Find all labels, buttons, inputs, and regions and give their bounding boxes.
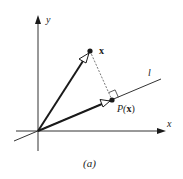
projection-label-suffix: ) — [131, 103, 134, 115]
projection-label-prefix: P( — [116, 103, 127, 115]
open-arrowhead-icon — [79, 53, 89, 63]
open-arrowhead-icon — [100, 100, 110, 108]
y-axis-arrow-icon — [35, 15, 41, 24]
point-x — [87, 48, 92, 53]
x-axis-arrow-icon — [157, 128, 166, 134]
projection-diagram: y x l x P(x) (a) — [0, 0, 183, 179]
projection-label: P(x) — [116, 103, 135, 115]
projection-segment — [90, 51, 112, 100]
point-projection — [109, 97, 114, 102]
y-axis-label: y — [45, 14, 51, 25]
line-l-label: l — [148, 67, 151, 78]
point-x-label: x — [99, 45, 104, 56]
figure-caption: (a) — [83, 157, 96, 170]
x-axis-label: x — [166, 118, 172, 129]
